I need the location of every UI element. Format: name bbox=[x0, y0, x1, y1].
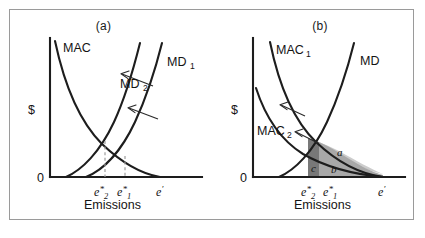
panel-a-y-axis-label: $ bbox=[28, 103, 35, 117]
figure-frame: (a) bbox=[9, 9, 414, 220]
panel-b-md-label: MD bbox=[360, 54, 379, 68]
panel-b-tick-e1-sub: 1 bbox=[333, 192, 337, 201]
panel-b-origin-label: 0 bbox=[240, 171, 247, 185]
panel-a-mac-curve bbox=[55, 41, 160, 177]
panel-a-plot: MAC MD 2 MD 1 $ 0 Emissions e * 2 e * 1 bbox=[10, 10, 213, 221]
panel-b-tick-e2-sub: 2 bbox=[311, 192, 315, 201]
figure-root: (a) bbox=[0, 0, 425, 238]
panel-b-mac2-label-sub: 2 bbox=[287, 130, 292, 140]
panel-a-md1-label-sub: 1 bbox=[190, 61, 195, 71]
panel-a-x-axis-label: Emissions bbox=[84, 198, 141, 212]
panel-a: (a) bbox=[10, 10, 213, 221]
panel-a-tick-e2-sub: 2 bbox=[104, 192, 108, 201]
panel-b-mac1-label: MAC bbox=[276, 43, 304, 57]
panel-a-md1-label: MD bbox=[167, 55, 186, 69]
panel-b-region-b-label: b bbox=[331, 163, 337, 175]
panel-a-mac-label: MAC bbox=[63, 41, 91, 55]
panel-b-plot: MAC 1 MAC 2 MD a b c $ 0 Emissions e * bbox=[213, 10, 415, 221]
panel-a-md2-label: MD bbox=[120, 77, 139, 91]
panel-b-mac1-label-sub: 1 bbox=[306, 49, 311, 59]
panel-b: (b) bbox=[213, 10, 415, 221]
panel-b-region-a-label: a bbox=[337, 146, 343, 158]
panel-a-md1-curve bbox=[86, 43, 162, 177]
panel-a-shift-arrow-lower bbox=[129, 108, 158, 119]
panel-b-tick-eprime-mark: ′ bbox=[384, 184, 386, 194]
panel-b-region-c-label: c bbox=[311, 162, 316, 174]
panel-b-mac2-label: MAC bbox=[257, 124, 285, 138]
panel-a-origin-label: 0 bbox=[37, 171, 44, 185]
panel-a-md2-label-sub: 2 bbox=[143, 83, 148, 93]
panel-a-tick-e1-sub: 1 bbox=[127, 192, 131, 201]
panel-b-shift-arrow-upper bbox=[281, 105, 305, 116]
panel-b-x-axis-label: Emissions bbox=[294, 198, 351, 212]
panel-a-tick-eprime-mark: ′ bbox=[162, 184, 164, 194]
panel-b-y-axis-label: $ bbox=[231, 103, 238, 117]
